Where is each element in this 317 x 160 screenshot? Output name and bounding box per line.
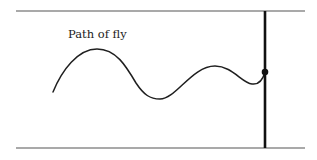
- fly-position-dot: [262, 69, 269, 76]
- path-of-fly-label: Path of fly: [68, 27, 127, 41]
- fly-path-curve: [53, 49, 265, 99]
- diagram-canvas: [0, 0, 317, 160]
